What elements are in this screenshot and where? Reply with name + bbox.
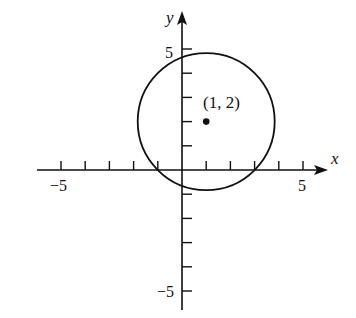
x-tick-label-5: 5 (298, 177, 306, 194)
y-tick-label-5: 5 (165, 44, 173, 61)
center-point-label: (1, 2) (203, 93, 240, 112)
x-axis-label: x (330, 149, 339, 168)
x-tick-label-neg5: −5 (50, 177, 67, 194)
center-point (203, 118, 210, 125)
coordinate-plane: x y −5 5 5 −5 (1, 2) (0, 0, 356, 318)
y-axis-label: y (164, 8, 174, 27)
y-tick-label-neg5: −5 (157, 283, 174, 300)
